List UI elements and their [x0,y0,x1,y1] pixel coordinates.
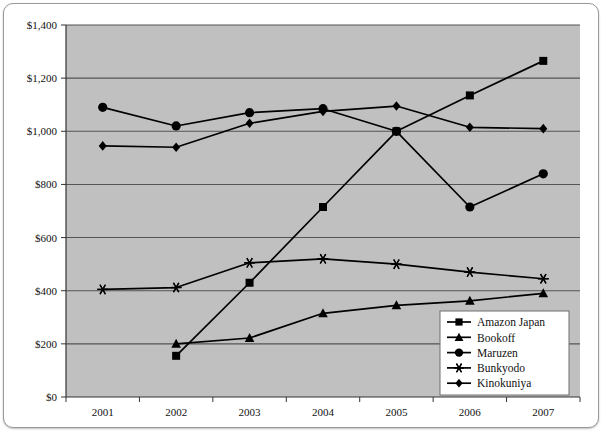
y-axis-tick-label: $400 [35,285,58,297]
y-axis-tick-label: $800 [35,178,58,190]
x-axis-tick-label: 2006 [459,406,482,418]
y-axis-tick-label: $1,200 [27,72,58,84]
x-axis-tick-label: 2005 [385,406,408,418]
marker-circle [465,202,474,211]
x-axis-tick-label: 2002 [165,406,187,418]
y-axis-tick-label: $1,000 [27,125,58,137]
x-axis-tick-label: 2003 [239,406,262,418]
legend-label: Maruzen [477,347,518,359]
y-axis-tick-label: $0 [46,391,58,403]
marker-square [319,203,327,211]
y-axis-tick-label: $1,400 [27,19,58,31]
marker-square [455,318,462,325]
x-axis-tick-label: 2007 [532,406,555,418]
chart-legend: Amazon JapanBookoffMaruzenBunkyodoKinoku… [440,311,569,395]
legend-label: Amazon Japan [477,316,545,329]
marker-square [466,91,474,99]
marker-circle [172,121,181,130]
legend-label: Kinokuniya [477,377,531,390]
x-axis-tick-label: 2004 [312,406,335,418]
marker-square [246,279,254,287]
marker-circle [98,103,107,112]
marker-circle [455,348,463,356]
marker-circle [245,108,254,117]
marker-square [539,57,547,65]
line-chart: $0$200$400$600$800$1,000$1,200$1,4002001… [0,0,606,433]
legend-label: Bunkyodo [477,362,525,375]
legend-label: Bookoff [477,332,515,344]
marker-square [172,352,180,360]
y-axis-tick-label: $600 [35,232,58,244]
marker-circle [392,127,401,136]
y-axis-tick-label: $200 [35,338,58,350]
x-axis-tick-label: 2001 [92,406,114,418]
chart-svg: $0$200$400$600$800$1,000$1,200$1,4002001… [0,0,606,433]
marker-circle [539,169,548,178]
